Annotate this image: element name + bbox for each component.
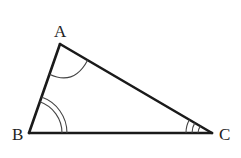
angle-mark-c-arc-3: [186, 120, 189, 133]
vertex-label-c: C: [219, 125, 230, 144]
triangle-diagram: A B C: [0, 0, 241, 158]
angle-mark-b-arc-1: [40, 102, 62, 133]
angle-mark-c-arc-2: [192, 123, 195, 133]
vertex-label-a: A: [54, 22, 67, 41]
angle-mark-b-arc-2: [42, 97, 68, 133]
edge-ab: [29, 44, 60, 133]
angle-mark-a: [50, 60, 88, 78]
vertex-label-b: B: [12, 125, 23, 144]
edge-ac: [60, 44, 212, 133]
angle-mark-b: [40, 97, 67, 133]
